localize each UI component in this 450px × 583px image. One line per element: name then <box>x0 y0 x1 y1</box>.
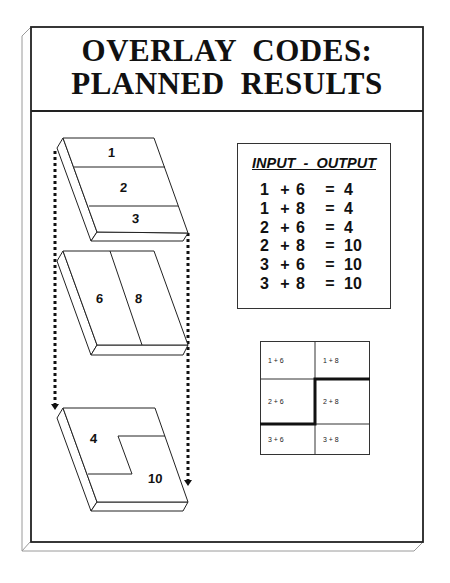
result-zone-4: 4 <box>90 431 98 446</box>
io-operator: + <box>274 219 296 238</box>
io-input-a: 2 <box>260 219 274 238</box>
io-input-a: 3 <box>260 275 274 294</box>
io-operator: + <box>274 181 296 200</box>
io-output: 4 <box>344 181 374 200</box>
io-output: 10 <box>344 237 374 256</box>
io-equals: = <box>316 181 344 200</box>
io-input-b: 6 <box>296 181 316 200</box>
io-row: 1+6=4 <box>260 181 374 200</box>
io-equals: = <box>316 200 344 219</box>
io-table-rows: 1+6=4 1+8=4 2+6=4 2+8=10 3+6=10 3+8=10 <box>260 181 374 294</box>
io-input-b: 6 <box>296 219 316 238</box>
layer1-zone-1: 1 <box>108 145 116 160</box>
io-table-header: INPUT - OUTPUT <box>238 155 390 171</box>
result-zone-10: 10 <box>148 471 163 486</box>
io-row: 3+6=10 <box>260 256 374 275</box>
io-operator: + <box>274 200 296 219</box>
io-operator: + <box>274 256 296 275</box>
grid-cell-3-6: 3 + 6 <box>260 424 315 455</box>
io-row: 2+8=10 <box>260 237 374 256</box>
page-title: OVERLAY CODES: PLANNED RESULTS <box>31 34 423 100</box>
title-line-2: PLANNED RESULTS <box>31 67 423 100</box>
layer2-zone-6: 6 <box>96 291 104 306</box>
arrow-down-icon <box>51 404 59 410</box>
grid-cell-1-6: 1 + 6 <box>260 341 315 379</box>
io-output: 10 <box>344 256 374 275</box>
grid-cell-2-6: 2 + 6 <box>260 379 315 424</box>
io-output: 4 <box>344 219 374 238</box>
io-row: 2+6=4 <box>260 219 374 238</box>
grid-cell-2-8: 2 + 8 <box>315 379 370 424</box>
io-output: 10 <box>344 275 374 294</box>
io-operator: + <box>274 275 296 294</box>
io-equals: = <box>316 275 344 294</box>
io-output: 4 <box>344 200 374 219</box>
io-equals: = <box>316 256 344 275</box>
layer2-zone-8: 8 <box>135 291 143 306</box>
arrow-down-icon <box>184 480 192 486</box>
combination-grid: 1 + 6 1 + 8 2 + 6 2 + 8 3 + 6 3 + 8 <box>260 341 370 455</box>
io-row: 1+8=4 <box>260 200 374 219</box>
io-input-a: 2 <box>260 237 274 256</box>
io-input-b: 8 <box>296 275 316 294</box>
grid-cell-1-8: 1 + 8 <box>315 341 370 379</box>
io-equals: = <box>316 237 344 256</box>
io-input-b: 8 <box>296 237 316 256</box>
result-slab <box>57 408 188 511</box>
title-line-1: OVERLAY CODES: <box>31 34 423 67</box>
io-row: 3+8=10 <box>260 275 374 294</box>
io-input-b: 8 <box>296 200 316 219</box>
layer1-zone-3: 3 <box>132 211 140 226</box>
grid-cell-3-8: 3 + 8 <box>315 424 370 455</box>
input-output-table: INPUT - OUTPUT 1+6=4 1+8=4 2+6=4 2+8=10 … <box>237 143 391 309</box>
io-input-a: 1 <box>260 200 274 219</box>
layer2-slab <box>57 251 188 355</box>
io-input-a: 3 <box>260 256 274 275</box>
io-equals: = <box>316 219 344 238</box>
io-operator: + <box>274 237 296 256</box>
layer1-zone-2: 2 <box>120 180 128 195</box>
io-input-a: 1 <box>260 181 274 200</box>
io-input-b: 6 <box>296 256 316 275</box>
